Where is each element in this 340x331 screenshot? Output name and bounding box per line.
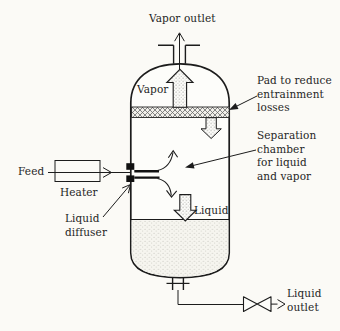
liquid-pool [132, 220, 229, 276]
pad-label-line2: entrainment [257, 88, 332, 102]
separation-chamber-label-line1: Separation [257, 129, 316, 143]
separation-chamber-label-line4: and vapor [257, 170, 316, 184]
outlet-valve-icon [244, 297, 272, 312]
liquid-diffuser-label-line1: Liquid [65, 212, 107, 226]
vapor-label: Vapor [137, 83, 168, 97]
liquid-diffuser-label: Liquid diffuser [65, 212, 107, 239]
pad-label: Pad to reduce entrainment losses [257, 74, 332, 115]
liquid-outlet-pipe [178, 290, 244, 305]
liquid-outlet-label: Liquid outlet [287, 287, 322, 314]
liquid-outlet-label-line1: Liquid [287, 287, 322, 301]
vapor-outlet-label: Vapor outlet [149, 12, 216, 26]
bottom-nozzle [167, 277, 190, 290]
liquid-diffuser-label-line2: diffuser [65, 226, 107, 240]
separation-chamber-label-line2: chamber [257, 143, 316, 157]
separation-chamber-label-line3: for liquid [257, 156, 316, 170]
flash-drum-diagram: Vapor outlet Vapor Pad to reduce entrain… [0, 0, 340, 331]
liquid-diffuser-leader-line [103, 185, 131, 218]
separation-chamber-label: Separation chamber for liquid and vapor [257, 129, 316, 183]
heater-box [55, 161, 100, 182]
feed-label: Feed [18, 165, 44, 179]
heater-label: Heater [60, 186, 98, 200]
feed-line [48, 168, 131, 178]
demister-pad [132, 107, 230, 118]
liquid-outlet-label-line2: outlet [287, 301, 322, 315]
liquid-outlet-arrow [271, 300, 285, 309]
pad-label-line1: Pad to reduce [257, 74, 332, 88]
pad-leader-line [229, 96, 257, 110]
pad-label-line3: losses [257, 101, 332, 115]
liquid-label: Liquid [194, 204, 229, 218]
